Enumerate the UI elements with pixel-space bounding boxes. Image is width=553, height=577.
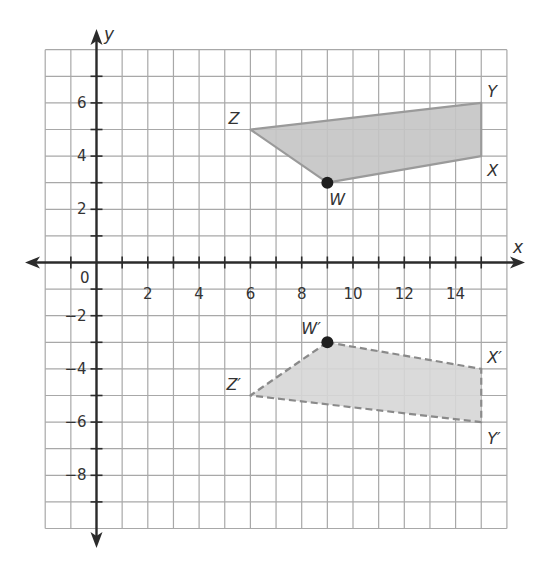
vertex-point — [321, 336, 333, 348]
x-tick-label: 14 — [446, 285, 465, 303]
y-axis-label: y — [103, 24, 115, 44]
vertex-label: X — [486, 161, 499, 180]
vertex-label: W — [329, 190, 346, 209]
x-tick-label: 10 — [343, 285, 362, 303]
y-tick-label: −8 — [64, 466, 86, 484]
x-tick-label: 4 — [194, 285, 204, 303]
x-tick-label: 8 — [297, 285, 307, 303]
vertex-label: W′ — [301, 319, 321, 338]
y-tick-label: −4 — [64, 360, 86, 378]
y-tick-label: −2 — [64, 307, 86, 325]
y-tick-label: −6 — [64, 413, 86, 431]
vertex-point — [321, 177, 333, 189]
vertex-label: Y — [487, 82, 498, 101]
x-axis-label: x — [512, 237, 524, 257]
x-tick-label: 2 — [143, 285, 153, 303]
y-tick-label: 4 — [77, 147, 87, 165]
vertex-label: X′ — [486, 348, 502, 367]
x-tick-label: 12 — [395, 285, 414, 303]
y-tick-label: 2 — [77, 200, 87, 218]
y-tick-label: 6 — [77, 94, 87, 112]
preimage-polygon — [250, 103, 481, 183]
image-polygon — [250, 342, 481, 422]
vertex-label: Y′ — [487, 429, 501, 448]
coordinate-plane: 2468101214642−2−4−6−8 WXYZW′X′Y′Z′ x y 0 — [0, 0, 553, 577]
vertex-label: Z — [227, 109, 240, 128]
x-tick-label: 6 — [246, 285, 256, 303]
origin-label: 0 — [80, 269, 90, 287]
vertex-label: Z′ — [225, 375, 241, 394]
